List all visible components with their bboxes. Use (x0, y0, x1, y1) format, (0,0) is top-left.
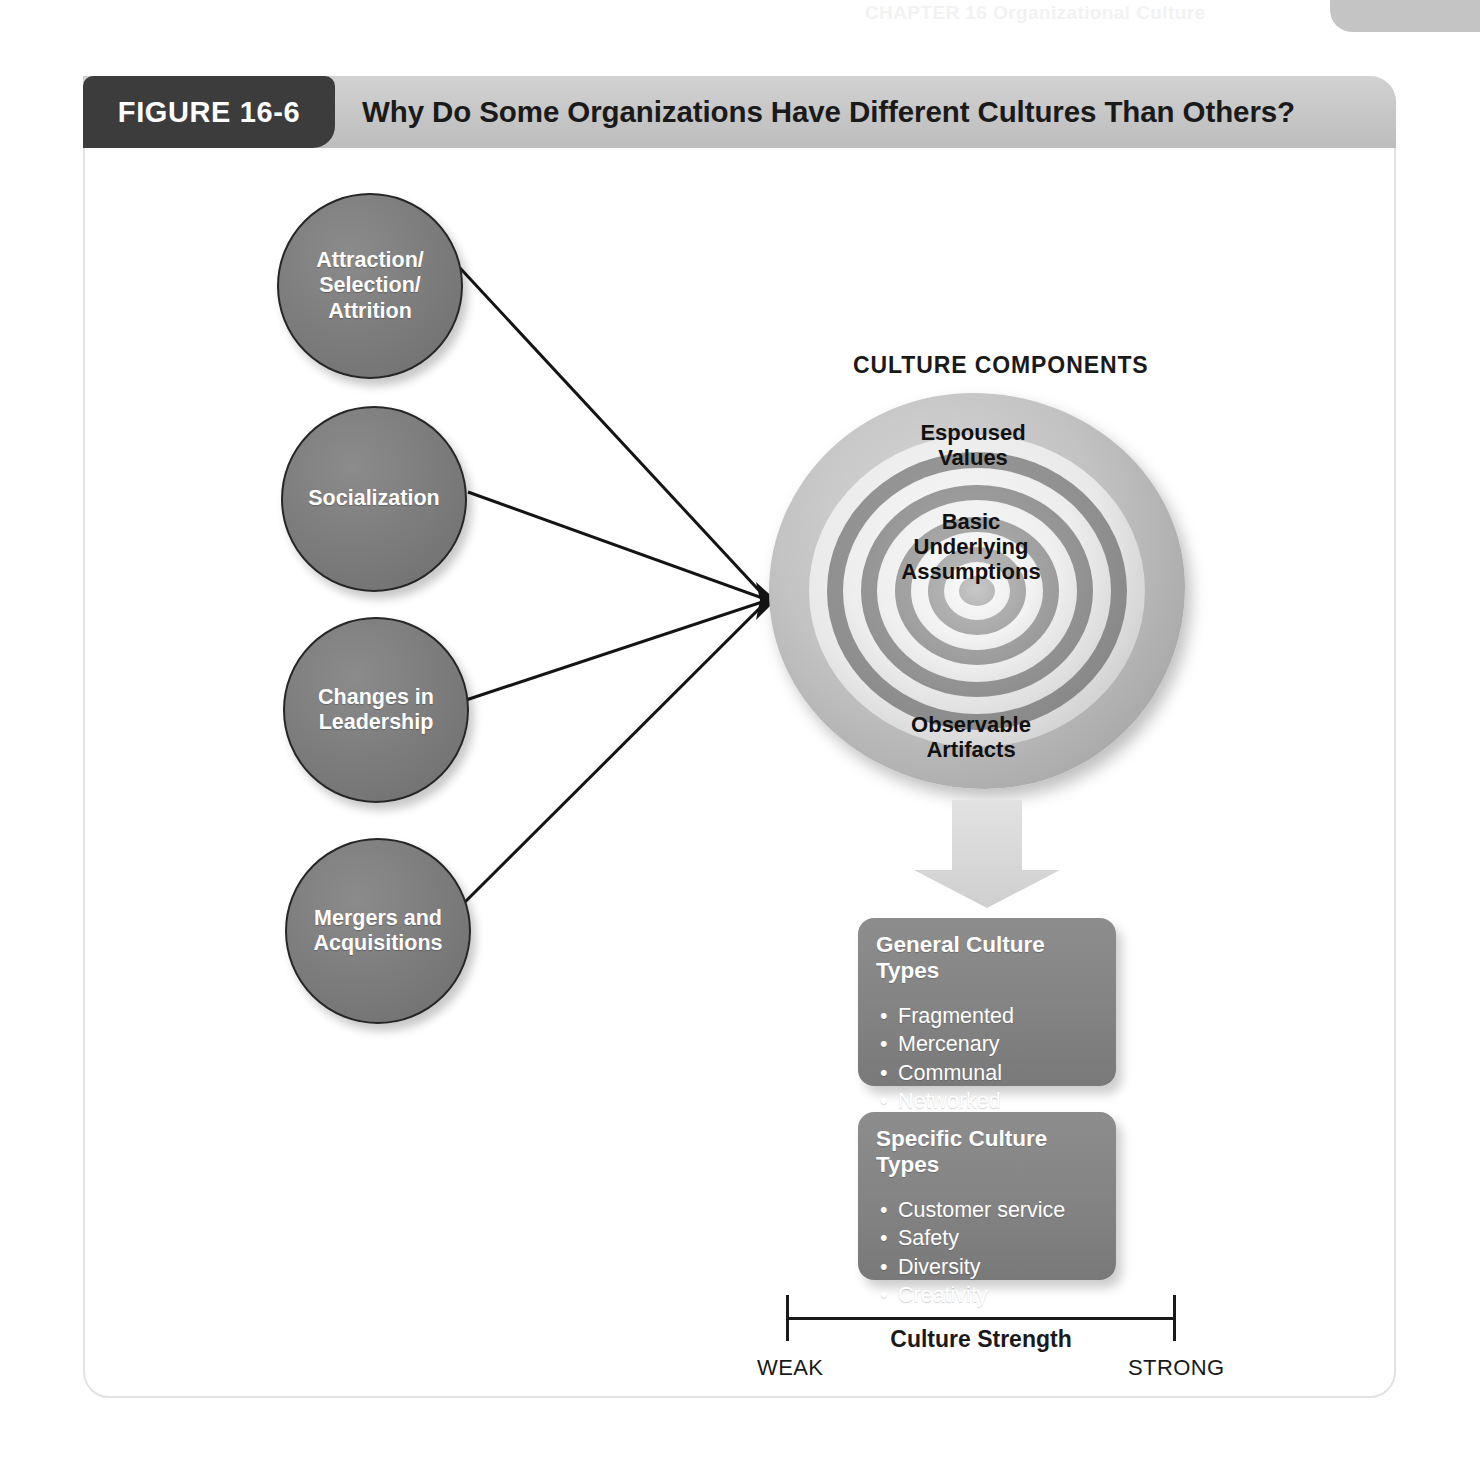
list-item: Communal (898, 1059, 1098, 1087)
onion-label-observable-artifacts: ObservableArtifacts (971, 712, 1091, 762)
figure-number-label: FIGURE 16-6 (118, 96, 300, 129)
general-culture-types-box[interactable]: General Culture Types FragmentedMercenar… (858, 918, 1116, 1086)
specific-culture-types-box[interactable]: Specific Culture Types Customer serviceS… (858, 1112, 1116, 1280)
driver-label-socialization: Socialization (308, 486, 439, 511)
culture-strength-label: Culture Strength (786, 1326, 1176, 1353)
driver-circle-mergers-and-acquisitions[interactable]: Mergers andAcquisitions (285, 838, 471, 1024)
page-corner-tab (1330, 0, 1480, 32)
specific-culture-types-title: Specific Culture Types (876, 1126, 1098, 1178)
general-culture-types-title: General Culture Types (876, 932, 1098, 984)
culture-onion-diagram: EspousedValues BasicUnderlyingAssumption… (768, 392, 1186, 790)
list-item: Fragmented (898, 1002, 1098, 1030)
scale-bar (786, 1317, 1176, 1320)
driver-label-mergers: Mergers andAcquisitions (313, 906, 442, 957)
scale-label-strong: STRONG (1128, 1355, 1225, 1381)
driver-label-leadership: Changes inLeadership (318, 685, 434, 736)
list-item: Mercenary (898, 1030, 1098, 1058)
driver-label-asa: Attraction/Selection/Attrition (316, 248, 424, 324)
specific-culture-types-list: Customer serviceSafetyDiversityCreativit… (876, 1196, 1098, 1310)
driver-circle-socialization[interactable]: Socialization (281, 406, 467, 592)
list-item: Customer service (898, 1196, 1098, 1224)
general-culture-types-list: FragmentedMercenaryCommunalNetworked (876, 1002, 1098, 1116)
list-item: Safety (898, 1224, 1098, 1252)
figure-number-tab: FIGURE 16-6 (83, 76, 335, 148)
figure-title: Why Do Some Organizations Have Different… (362, 76, 1295, 148)
running-head: CHAPTER 16 Organizational Culture (865, 2, 1205, 24)
scale-label-weak: WEAK (757, 1355, 823, 1381)
driver-circle-attraction-selection-attrition[interactable]: Attraction/Selection/Attrition (277, 193, 463, 379)
down-arrow-icon (912, 800, 1062, 910)
culture-components-heading: CULTURE COMPONENTS (853, 352, 1149, 379)
list-item: Diversity (898, 1253, 1098, 1281)
onion-label-basic-underlying-assumptions: BasicUnderlyingAssumptions (971, 509, 1110, 584)
driver-circle-changes-in-leadership[interactable]: Changes inLeadership (283, 617, 469, 803)
onion-label-espoused-values: EspousedValues (973, 420, 1078, 470)
